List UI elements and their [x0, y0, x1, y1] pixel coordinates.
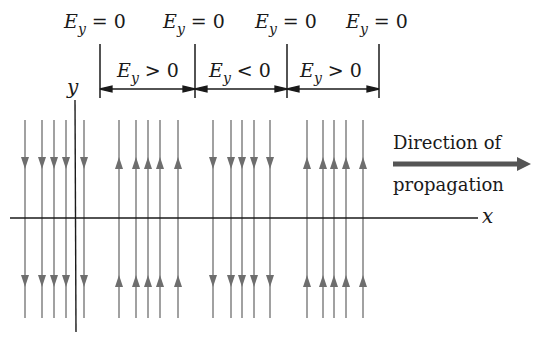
arrow-up-icon	[359, 157, 367, 169]
y-axis-label: y	[67, 75, 78, 99]
relation: < 0	[237, 59, 271, 81]
arrow-down-icon	[21, 275, 29, 287]
propagation-label-line2: propagation	[393, 174, 504, 195]
arrow-up-icon	[303, 275, 311, 287]
arrow-up-icon	[330, 275, 338, 287]
e-symbol: E	[64, 10, 78, 32]
arrow-up-icon	[115, 275, 123, 287]
propagation-label-line1: Direction of	[393, 132, 501, 153]
arrow-up-icon	[144, 275, 152, 287]
region-dimension-arrows	[100, 86, 379, 92]
arrow-down-icon	[250, 157, 258, 169]
ey-zero-label-1: Ey = 0	[64, 10, 126, 32]
propagation-arrow-icon	[393, 157, 531, 171]
arrow-down-icon	[38, 275, 46, 287]
arrow-up-icon	[132, 157, 140, 169]
arrow-up-icon	[132, 275, 140, 287]
relation: = 0	[283, 10, 317, 32]
e-symbol: E	[117, 59, 131, 81]
ey-zero-label-4: Ey = 0	[346, 10, 408, 32]
arrow-down-icon	[50, 275, 58, 287]
arrow-down-icon	[238, 157, 246, 169]
arrow-down-icon	[80, 157, 88, 169]
subscript: y	[78, 21, 86, 37]
subscript: y	[360, 21, 368, 37]
relation: = 0	[374, 10, 408, 32]
subscript: y	[314, 70, 322, 86]
arrow-up-icon	[115, 157, 123, 169]
arrow-up-icon	[303, 157, 311, 169]
arrow-down-icon	[21, 157, 29, 169]
e-symbol: E	[163, 10, 177, 32]
region-label-1: Ey > 0	[117, 59, 179, 81]
arrow-down-icon	[238, 275, 246, 287]
arrow-down-icon	[62, 275, 70, 287]
arrow-down-icon	[209, 275, 217, 287]
subscript: y	[269, 21, 277, 37]
relation: = 0	[92, 10, 126, 32]
arrow-down-icon	[266, 275, 274, 287]
region-label-2: Ey < 0	[209, 59, 271, 81]
arrow-down-icon	[38, 157, 46, 169]
arrow-up-icon	[319, 157, 327, 169]
relation: > 0	[145, 59, 179, 81]
arrow-down-icon	[50, 157, 58, 169]
arrow-up-icon	[319, 275, 327, 287]
arrow-up-icon	[174, 157, 182, 169]
arrow-up-icon	[342, 275, 350, 287]
arrow-down-icon	[266, 157, 274, 169]
arrow-down-icon	[62, 157, 70, 169]
e-symbol: E	[346, 10, 360, 32]
region-label-3: Ey > 0	[300, 59, 362, 81]
e-symbol: E	[209, 59, 223, 81]
y-axis	[75, 100, 76, 332]
arrow-down-icon	[80, 275, 88, 287]
ey-zero-label-2: Ey = 0	[163, 10, 225, 32]
arrow-down-icon	[209, 157, 217, 169]
arrow-up-icon	[342, 157, 350, 169]
arrow-down-icon	[227, 157, 235, 169]
electric-field-lines	[21, 120, 367, 318]
field-diagram	[0, 0, 541, 337]
arrow-up-icon	[330, 157, 338, 169]
arrow-down-icon	[250, 275, 258, 287]
arrow-up-icon	[359, 275, 367, 287]
ey-zero-label-3: Ey = 0	[255, 10, 317, 32]
relation: = 0	[191, 10, 225, 32]
x-axis-label: x	[482, 204, 493, 228]
subscript: y	[131, 70, 139, 86]
e-symbol: E	[255, 10, 269, 32]
subscript: y	[177, 21, 185, 37]
arrow-up-icon	[156, 275, 164, 287]
relation: > 0	[328, 59, 362, 81]
arrow-up-icon	[144, 157, 152, 169]
subscript: y	[223, 70, 231, 86]
arrow-up-icon	[174, 275, 182, 287]
arrow-down-icon	[227, 275, 235, 287]
e-symbol: E	[300, 59, 314, 81]
arrow-up-icon	[156, 157, 164, 169]
